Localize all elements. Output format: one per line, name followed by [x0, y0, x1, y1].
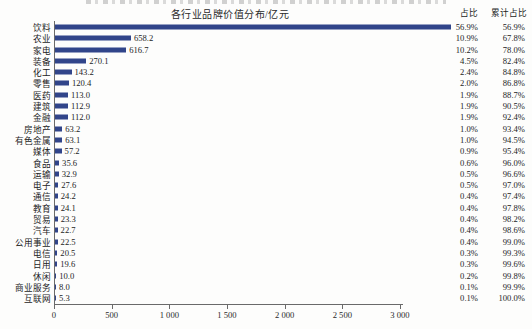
bar [55, 92, 68, 97]
category-label: 饮料 [0, 21, 54, 33]
chart-row: 互联网 5.3 0.1% 100.0% [0, 292, 532, 303]
category-label: 休闲 [0, 270, 54, 282]
bar [55, 81, 69, 86]
bar-value-label: 113.0 [71, 90, 90, 100]
bar-zone: 22.5 [54, 236, 452, 248]
pct-value: 1.0% [452, 135, 478, 145]
cum-pct-value: 99.8% [478, 271, 525, 281]
bar-value-label: 143.2 [75, 67, 94, 77]
bar [55, 228, 58, 233]
bar-zone: 27.6 [54, 179, 452, 191]
category-label: 通信 [0, 190, 54, 202]
pct-value: 0.2% [452, 271, 478, 281]
bar-zone: 10.0 [54, 270, 452, 282]
bar-zone: 19.6 [54, 258, 452, 270]
bar-zone: 270.1 [54, 55, 452, 67]
bar-value-label: 19.6 [60, 259, 75, 269]
chart-row: 农业 658.2 10.9% 67.8% [0, 32, 532, 43]
bar-value-label: 32.9 [62, 169, 77, 179]
cum-pct-value: 96.0% [478, 158, 525, 168]
cum-pct-value: 88.7% [478, 90, 525, 100]
bar [55, 183, 58, 188]
chart-row: 教育 24.1 0.4% 97.8% [0, 202, 532, 213]
bar-zone: 616.7 [54, 44, 452, 56]
cum-pct-value: 97.4% [478, 191, 525, 201]
pct-value: 2.0% [452, 78, 478, 88]
category-label: 建筑 [0, 100, 54, 112]
bar-value-label: 27.6 [61, 180, 76, 190]
bar-zone: 22.7 [54, 224, 452, 236]
cum-pct-value: 86.8% [478, 78, 525, 88]
bar-zone: 120.4 [54, 77, 452, 89]
pct-value: 1.9% [452, 112, 478, 122]
x-axis-tick-label: 0 [52, 310, 56, 320]
cum-pct-value: 98.2% [478, 214, 525, 224]
chart-row: 零售 120.4 2.0% 86.8% [0, 77, 532, 88]
x-axis-tick [169, 305, 170, 309]
chart-row: 媒体 57.2 0.9% 95.4% [0, 145, 532, 156]
x-axis-tick-label: 2 500 [333, 310, 352, 320]
chart-row: 公用事业 22.5 0.4% 99.0% [0, 236, 532, 247]
cum-pct-value: 67.8% [478, 33, 525, 43]
bar-zone: 63.2 [54, 123, 452, 135]
pct-value: 0.4% [452, 203, 478, 213]
cum-pct-value: 98.6% [478, 225, 525, 235]
cum-pct-value: 95.4% [478, 146, 525, 156]
bar [55, 239, 58, 244]
bar-zone: 8.0 [54, 281, 452, 293]
x-axis-tick [342, 305, 343, 309]
category-label: 商业服务 [0, 281, 54, 293]
cum-pct-value: 78.0% [478, 45, 525, 55]
bar [55, 171, 59, 176]
x-axis-tick [400, 305, 401, 309]
bar-zone: 24.2 [54, 190, 452, 202]
pct-value: 0.1% [452, 293, 478, 303]
x-axis-tick [227, 305, 228, 309]
bar-zone: 5.3 [54, 292, 452, 304]
chart-row: 房地产 63.2 1.0% 93.4% [0, 123, 532, 134]
chart-row: 化工 143.2 2.4% 84.8% [0, 66, 532, 77]
bar-value-label: 24.2 [61, 191, 76, 201]
bar [55, 205, 58, 210]
bar [55, 70, 72, 75]
category-label: 化工 [0, 66, 54, 78]
bar-value-label: 63.2 [65, 124, 80, 134]
category-label: 互联网 [0, 292, 54, 304]
pct-value: 0.6% [452, 158, 478, 168]
cum-pct-value: 99.9% [478, 282, 525, 292]
bar-value-label: 57.2 [65, 146, 80, 156]
bar [55, 115, 68, 120]
chart-row: 医药 113.0 1.9% 88.7% [0, 89, 532, 100]
cum-pct-value: 97.8% [478, 203, 525, 213]
bar-zone: 23.3 [54, 213, 452, 225]
pct-value: 1.0% [452, 124, 478, 134]
cum-pct-value: 84.8% [478, 67, 525, 77]
x-axis-tick-label: 1 000 [160, 310, 179, 320]
cum-pct-value: 99.6% [478, 259, 525, 269]
chart-row: 有色金属 63.1 1.0% 94.5% [0, 134, 532, 145]
bar-value-label: 10.0 [59, 271, 74, 281]
x-axis-tick-label: 1 500 [217, 310, 236, 320]
pct-value: 0.1% [452, 282, 478, 292]
pct-value: 1.9% [452, 101, 478, 111]
category-label: 媒体 [0, 145, 54, 157]
pct-value: 10.9% [452, 33, 478, 43]
bar-value-label: 270.1 [89, 56, 108, 66]
bar [55, 273, 56, 278]
category-label: 医药 [0, 89, 54, 101]
x-axis-tick-label: 3 000 [390, 310, 409, 320]
bar-value-label: 22.5 [61, 237, 76, 247]
category-label: 零售 [0, 77, 54, 89]
bar [55, 262, 57, 267]
bar [55, 126, 62, 131]
category-label: 电信 [0, 247, 54, 259]
pct-value: 0.9% [452, 146, 478, 156]
bar-value-label: 120.4 [72, 78, 91, 88]
x-axis: 05001 0001 5002 0002 5003 000 [54, 304, 403, 305]
pct-value: 0.5% [452, 180, 478, 190]
x-axis-tick [54, 305, 55, 309]
bar-zone: 63.1 [54, 134, 452, 146]
x-axis-tick-label: 2 000 [275, 310, 294, 320]
pct-value: 56.9% [452, 22, 478, 32]
cum-pct-value: 56.9% [478, 22, 525, 32]
